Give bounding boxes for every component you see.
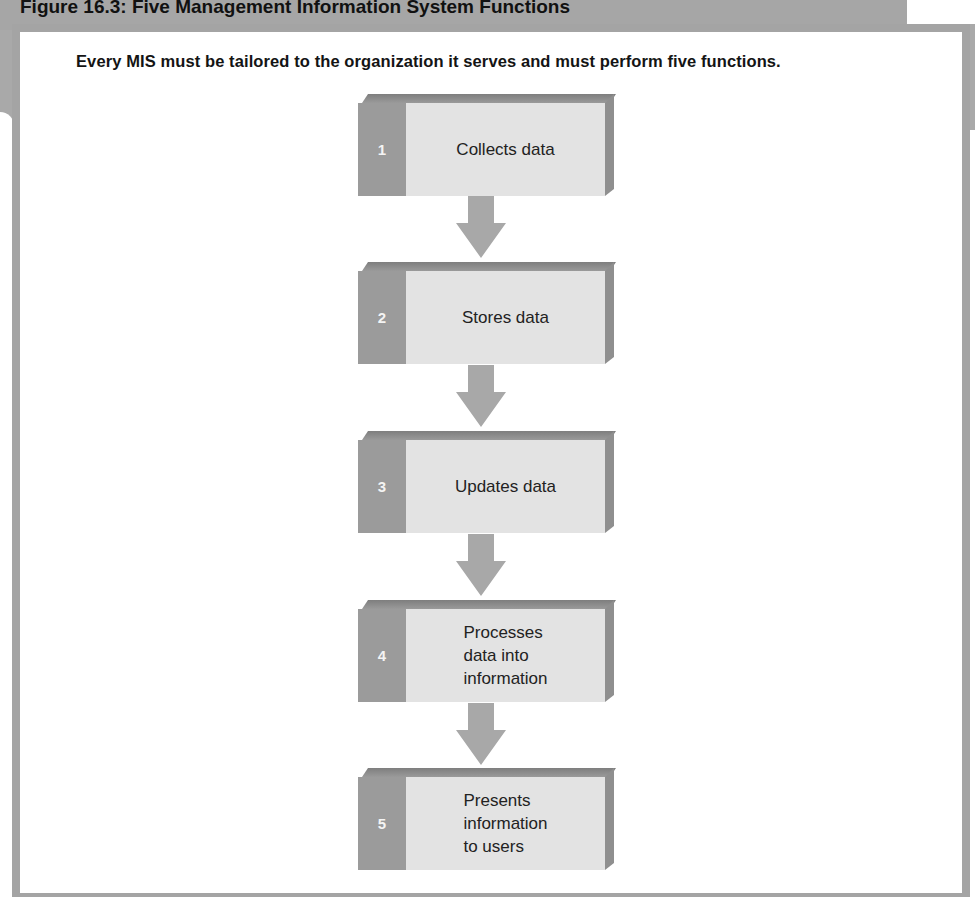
- step-number: 5: [358, 777, 406, 870]
- step-box-2: 2 Stores data: [358, 262, 614, 364]
- step-number: 4: [358, 609, 406, 702]
- step-label: Updates data: [455, 475, 556, 498]
- box-right-bevel: [605, 768, 614, 870]
- step-number: 3: [358, 440, 406, 533]
- step-face: Stores data: [406, 271, 605, 364]
- down-arrow-icon: [456, 196, 506, 260]
- step-number: 1: [358, 103, 406, 196]
- figure-title: Figure 16.3: Five Management Information…: [20, 0, 570, 18]
- step-box-4: 4 Processes data into information: [358, 600, 614, 702]
- step-face: Collects data: [406, 103, 605, 196]
- box-top-bevel: [362, 431, 616, 440]
- step-face: Updates data: [406, 440, 605, 533]
- step-number: 2: [358, 271, 406, 364]
- step-label: Processes data into information: [463, 621, 547, 690]
- box-right-bevel: [605, 262, 614, 364]
- step-face: Presents information to users: [406, 777, 605, 870]
- step-box-3: 3 Updates data: [358, 431, 614, 533]
- down-arrow-icon: [456, 365, 506, 429]
- header-right-background: [907, 0, 975, 24]
- step-box-5: 5 Presents information to users: [358, 768, 614, 870]
- step-label: Stores data: [462, 306, 549, 329]
- down-arrow-icon: [456, 534, 506, 598]
- step-face: Processes data into information: [406, 609, 605, 702]
- box-top-bevel: [362, 262, 616, 271]
- box-right-bevel: [605, 431, 614, 533]
- box-right-bevel: [605, 94, 614, 196]
- box-top-bevel: [362, 768, 616, 777]
- step-box-1: 1 Collects data: [358, 94, 614, 196]
- step-label: Collects data: [456, 138, 554, 161]
- box-top-bevel: [362, 600, 616, 609]
- box-top-bevel: [362, 94, 616, 103]
- down-arrow-icon: [456, 703, 506, 767]
- figure-panel-body: Every MIS must be tailored to the organi…: [20, 32, 962, 893]
- figure-subtitle: Every MIS must be tailored to the organi…: [76, 52, 781, 71]
- step-label: Presents information to users: [463, 789, 547, 858]
- box-right-bevel: [605, 600, 614, 702]
- figure-panel: Every MIS must be tailored to the organi…: [12, 24, 970, 897]
